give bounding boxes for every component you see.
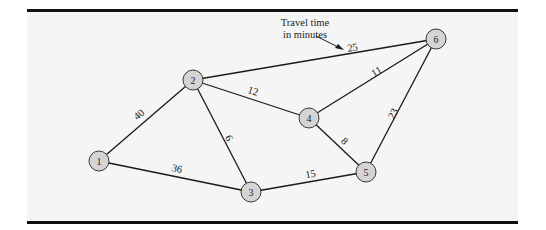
edge-weight-3-5: 15 — [304, 168, 316, 181]
edge-1-2 — [99, 80, 193, 161]
node-6: 6 — [426, 29, 446, 49]
edge-weight-1-3: 36 — [171, 162, 183, 175]
node-label: 4 — [307, 113, 312, 124]
edge-4-5 — [309, 118, 366, 172]
edge-weight-4-5: 8 — [339, 135, 350, 147]
annotation-arrow-head — [335, 44, 344, 50]
edge-5-6 — [366, 39, 436, 172]
node-3: 3 — [241, 182, 261, 202]
edge-4-6 — [309, 39, 436, 118]
node-5: 5 — [356, 162, 376, 182]
edge-weight-5-6: 23 — [386, 106, 401, 120]
edge-2-6 — [193, 39, 436, 80]
network-graph: 4036612251581123 Travel time in minutes … — [0, 0, 546, 230]
annotation-line-1: Travel time — [281, 17, 330, 28]
node-label: 6 — [434, 34, 439, 45]
travel-time-annotation: Travel time in minutes — [281, 17, 344, 50]
node-1: 1 — [89, 151, 109, 171]
edge-weight-4-6: 11 — [369, 64, 383, 79]
node-4: 4 — [299, 108, 319, 128]
edge-weight-1-2: 40 — [131, 107, 146, 122]
edge-weight-2-6: 25 — [346, 41, 358, 54]
node-label: 1 — [97, 156, 102, 167]
edge-weight-2-3: 6 — [223, 133, 235, 143]
node-label: 5 — [364, 167, 369, 178]
node-label: 2 — [191, 75, 196, 86]
edge-labels-layer: 4036612251581123 — [131, 41, 400, 180]
node-2: 2 — [183, 70, 203, 90]
node-label: 3 — [249, 187, 254, 198]
edge-weight-2-4: 12 — [246, 84, 259, 98]
